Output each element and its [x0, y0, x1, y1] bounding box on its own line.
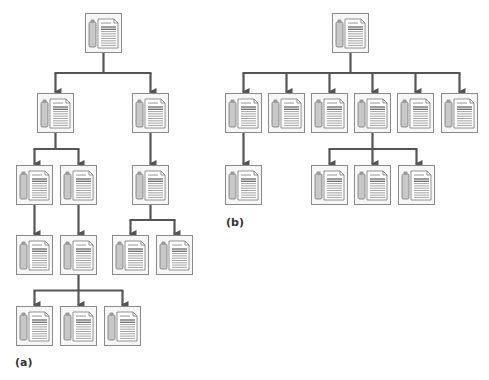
server-document-icon [17, 166, 52, 204]
server-document-icon [61, 236, 96, 274]
server-document-icon [398, 94, 433, 132]
tree-node-b10 [398, 165, 435, 205]
tree-node-b7 [225, 165, 262, 205]
server-document-icon [133, 166, 168, 204]
tree-node-b3 [311, 93, 348, 133]
tree-node-b1 [225, 93, 262, 133]
diagram-label-a: (a) [15, 356, 32, 369]
server-document-icon [113, 236, 148, 274]
tree-node-a1 [37, 93, 74, 133]
server-document-icon [157, 236, 192, 274]
server-document-icon [61, 166, 96, 204]
tree-node-a5 [132, 165, 169, 205]
tree-node-a0 [85, 13, 122, 53]
tree-node-a12 [104, 306, 141, 346]
server-document-icon [226, 166, 261, 204]
tree-node-a8 [112, 235, 149, 275]
server-document-icon [399, 166, 434, 204]
tree-node-b5 [397, 93, 434, 133]
server-document-icon [38, 94, 73, 132]
tree-node-a11 [60, 306, 97, 346]
tree-node-b2 [268, 93, 305, 133]
server-document-icon [312, 166, 347, 204]
server-document-icon [133, 94, 168, 132]
tree-node-b9 [354, 165, 391, 205]
tree-node-a4 [60, 165, 97, 205]
tree-node-a3 [16, 165, 53, 205]
server-document-icon [105, 307, 140, 345]
tree-node-b0 [332, 13, 369, 53]
tree-node-a2 [132, 93, 169, 133]
server-document-icon [269, 94, 304, 132]
server-document-icon [61, 307, 96, 345]
diagram-label-b: (b) [226, 216, 244, 229]
server-document-icon [355, 94, 390, 132]
server-document-icon [17, 307, 52, 345]
server-document-icon [312, 94, 347, 132]
tree-node-a7 [60, 235, 97, 275]
server-document-icon [86, 14, 121, 52]
server-document-icon [355, 166, 390, 204]
tree-node-a10 [16, 306, 53, 346]
server-document-icon [226, 94, 261, 132]
tree-node-b4 [354, 93, 391, 133]
tree-node-b8 [311, 165, 348, 205]
server-document-icon [333, 14, 368, 52]
tree-node-a6 [16, 235, 53, 275]
tree-node-b6 [441, 93, 478, 133]
tree-node-a9 [156, 235, 193, 275]
server-document-icon [442, 94, 477, 132]
server-document-icon [17, 236, 52, 274]
diagram-canvas: (a) (b) [0, 0, 489, 380]
